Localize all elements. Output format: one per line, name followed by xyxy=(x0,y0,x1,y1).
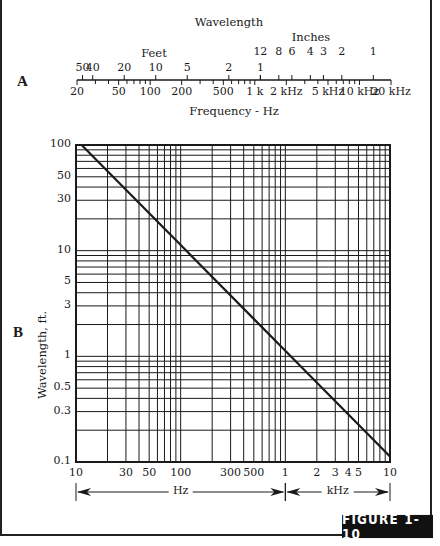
plot-border xyxy=(76,145,390,462)
chart-svg xyxy=(0,0,440,546)
figure-label: FIGURE 1-10 xyxy=(342,515,433,538)
wavelength-line xyxy=(82,145,390,456)
